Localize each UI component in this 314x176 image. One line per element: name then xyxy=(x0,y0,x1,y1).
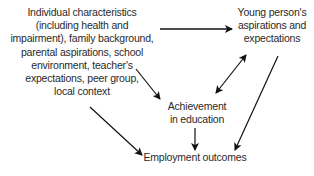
node-text-line: expectations xyxy=(230,32,314,45)
node-text-line: Individual characteristics xyxy=(2,6,162,19)
node-text-line: aspirations and xyxy=(230,19,314,32)
node-text-line: environment, teacher's xyxy=(2,59,162,72)
node-individual-characteristics: Individual characteristics (including he… xyxy=(2,6,162,98)
arrow-individual-to-employment xyxy=(90,107,142,155)
node-text-line: local context xyxy=(2,85,162,98)
node-text-line: impairment), family background, xyxy=(2,32,162,45)
arrow-young-achievement-double xyxy=(216,55,246,93)
arrow-young-to-employment xyxy=(235,56,278,150)
node-text-line: in education xyxy=(160,113,234,126)
node-text-line: Young person's xyxy=(230,6,314,19)
node-text-line: Employment outcomes xyxy=(120,151,270,164)
node-achievement-in-education: Achievement in education xyxy=(160,100,234,126)
node-young-persons-aspirations: Young person's aspirations and expectati… xyxy=(230,6,314,46)
node-text-line: parental aspirations, school xyxy=(2,46,162,59)
node-text-line: (including health and xyxy=(2,19,162,32)
node-text-line: expectations, peer group, xyxy=(2,72,162,85)
node-employment-outcomes: Employment outcomes xyxy=(120,151,270,164)
node-text-line: Achievement xyxy=(160,100,234,113)
